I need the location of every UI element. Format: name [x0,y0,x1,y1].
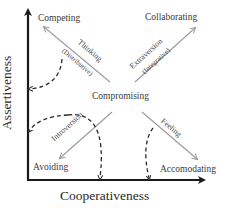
mode-compromising: Compromising [92,92,149,102]
mode-collaborating: Collaborating [145,13,197,23]
dashed-arc-feeling [146,128,153,178]
mode-avoiding: Avoiding [33,163,68,173]
conflict-modes-diagram [0,0,230,212]
mode-competing: Competing [38,14,80,24]
y-axis-label: Assertiveness [0,56,14,130]
x-axis-label: Cooperativeness [60,189,149,203]
arrow-feeling [142,112,197,159]
mode-accomodating: Accomodating [160,165,216,175]
dashed-arc-competing [30,59,62,89]
